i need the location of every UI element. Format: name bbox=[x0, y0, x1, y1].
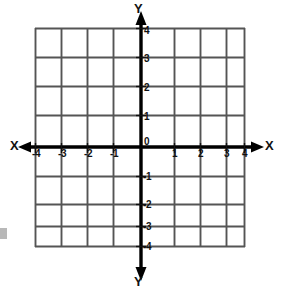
coordinate-plane-figure: -4 -3 -2 -1 1 2 3 4 4 3 2 1 0 -1 -2 -3 -… bbox=[0, 0, 281, 294]
x-tick-label-1: 1 bbox=[172, 149, 177, 159]
x-tick-label-minus-2: -2 bbox=[84, 149, 92, 159]
y-tick-label-minus-2: -2 bbox=[143, 200, 151, 210]
x-tick-label-3: 3 bbox=[224, 149, 229, 159]
origin-label: 0 bbox=[144, 137, 149, 147]
y-tick-label-2: 2 bbox=[144, 83, 149, 93]
y-axis-letter-top: Y bbox=[134, 2, 143, 15]
x-axis-arrow-left bbox=[18, 142, 31, 153]
x-axis-arrow-right bbox=[251, 142, 264, 153]
x-tick-label-2: 2 bbox=[198, 149, 203, 159]
scan-artifact bbox=[0, 228, 7, 239]
y-tick-label-minus-3: -3 bbox=[143, 222, 151, 232]
y-tick-label-4: 4 bbox=[144, 26, 149, 36]
x-tick-label-minus-3: -3 bbox=[58, 149, 66, 159]
x-tick-label-4: 4 bbox=[242, 149, 247, 159]
y-tick-label-1: 1 bbox=[144, 112, 149, 122]
y-tick-label-3: 3 bbox=[144, 54, 149, 64]
coordinate-plane-svg bbox=[0, 0, 281, 294]
x-axis-letter-left: X bbox=[10, 139, 19, 152]
y-tick-label-minus-4: -4 bbox=[143, 242, 151, 252]
y-tick-label-minus-1: -1 bbox=[143, 172, 151, 182]
x-tick-label-minus-1: -1 bbox=[110, 149, 118, 159]
x-tick-label-minus-4: -4 bbox=[32, 149, 40, 159]
x-axis-letter-right: X bbox=[265, 139, 274, 152]
y-axis-letter-bottom: Y bbox=[134, 275, 143, 288]
